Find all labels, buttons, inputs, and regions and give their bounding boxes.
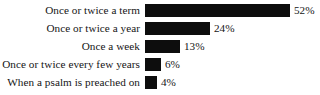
chart-row: Once or twice a year 24% (0, 19, 320, 37)
chart-row: Once a week 13% (0, 37, 320, 55)
category-label: Once or twice a term (0, 1, 140, 19)
category-label: Once a week (0, 37, 140, 55)
value-label: 4% (161, 73, 176, 91)
bar (145, 58, 161, 71)
chart-row: When a psalm is preached on 4% (0, 73, 320, 91)
value-label: 6% (165, 55, 180, 73)
bar-area: 13% (140, 37, 320, 55)
bar (145, 4, 290, 17)
chart-row: Once or twice a term 52% (0, 1, 320, 19)
horizontal-bar-chart: Once or twice a term 52% Once or twice a… (0, 0, 320, 95)
category-label: Once or twice every few years (0, 55, 140, 73)
category-label: Once or twice a year (0, 19, 140, 37)
bar-area: 24% (140, 19, 320, 37)
bar-area: 4% (140, 73, 320, 91)
value-label: 13% (184, 37, 205, 55)
bar (145, 40, 180, 53)
bar (145, 76, 157, 89)
bar (145, 22, 210, 35)
value-label: 52% (294, 1, 315, 19)
bar-area: 6% (140, 55, 320, 73)
value-label: 24% (214, 19, 235, 37)
category-label: When a psalm is preached on (0, 73, 140, 91)
bar-area: 52% (140, 1, 320, 19)
chart-row: Once or twice every few years 6% (0, 55, 320, 73)
